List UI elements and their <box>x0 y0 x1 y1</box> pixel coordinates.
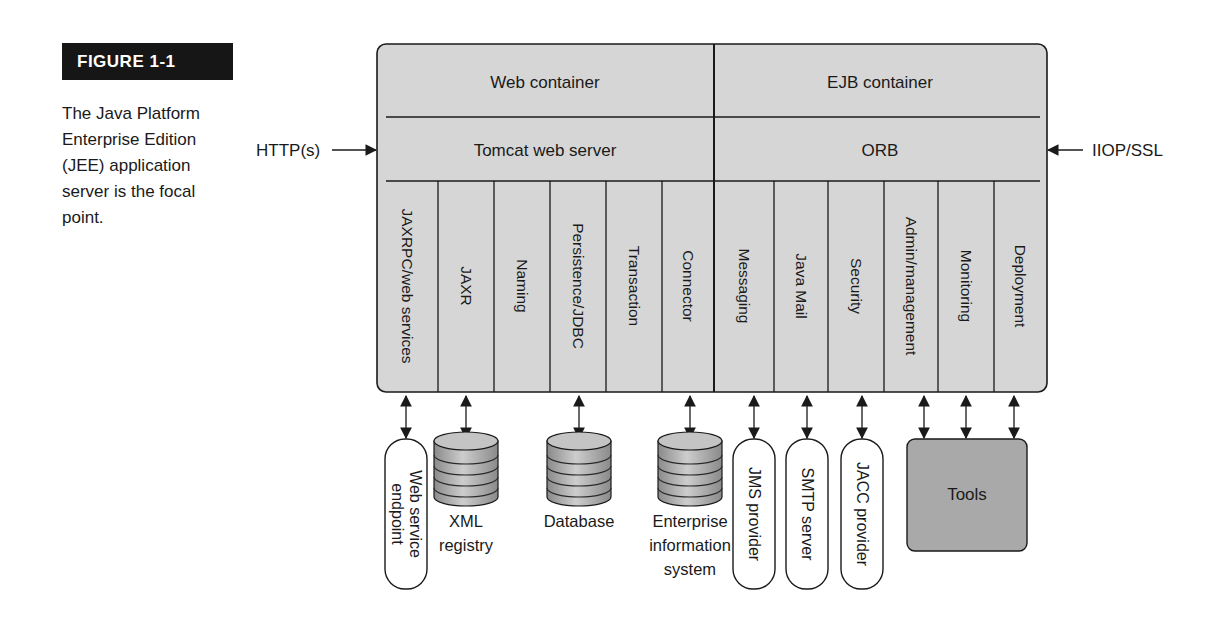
database-icon <box>547 432 611 506</box>
jee-architecture-diagram: Web container Tomcat web server EJB cont… <box>0 0 1232 620</box>
external-xml-registry: XMLregistry <box>434 396 498 554</box>
database-label: system <box>664 560 716 578</box>
service-messaging: Messaging <box>736 249 753 324</box>
service-label: Java Mail <box>793 253 810 318</box>
http-label: HTTP(s) <box>256 141 320 160</box>
server-box <box>377 44 1047 392</box>
pill-label: Web service <box>407 470 424 558</box>
service-label: Security <box>848 258 865 314</box>
tools-label: Tools <box>947 485 987 504</box>
service-label: Persistence/JDBC <box>570 223 587 349</box>
service-label: Connector <box>680 250 697 322</box>
service-label: Messaging <box>736 249 753 324</box>
database-label: Database <box>544 512 615 530</box>
database-label: Enterprise <box>652 512 727 530</box>
iiop-protocol: IIOP/SSL <box>1048 141 1163 160</box>
service-label: Deployment <box>1012 245 1029 328</box>
external-jacc-provider: JACC provider <box>841 396 883 589</box>
external-systems: Web serviceendpointXMLregistryDatabaseEn… <box>385 396 1027 589</box>
database-label: information <box>649 536 731 554</box>
service-label: JAXRPC/web services <box>399 208 416 363</box>
external-database: Database <box>544 396 615 530</box>
pill-label: endpoint <box>389 483 406 545</box>
database-icon <box>434 432 498 506</box>
http-protocol: HTTP(s) <box>256 141 376 160</box>
pill-label: JMS provider <box>746 467 763 562</box>
service-label: Naming <box>514 259 531 312</box>
pill-label: SMTP server <box>799 467 816 561</box>
orb-title: ORB <box>862 141 899 160</box>
iiop-label: IIOP/SSL <box>1092 141 1163 160</box>
external-web-service-endpoint: Web serviceendpoint <box>385 396 427 589</box>
pill-label: JACC provider <box>854 462 871 567</box>
web-server-title: Tomcat web server <box>474 141 617 160</box>
service-label: Monitoring <box>958 250 975 322</box>
database-label: XML <box>449 512 483 530</box>
service-jaxrpc-web-services: JAXRPC/web services <box>399 208 416 363</box>
ejb-container-title: EJB container <box>827 73 933 92</box>
database-label: registry <box>439 536 494 554</box>
external-tools: Tools <box>907 396 1027 551</box>
application-server: Web container Tomcat web server EJB cont… <box>377 44 1047 392</box>
service-label: Transaction <box>626 246 643 326</box>
database-icon <box>658 432 722 506</box>
service-label: Admin/management <box>903 217 920 356</box>
external-enterprise-information-system: Enterpriseinformationsystem <box>649 396 731 578</box>
web-container-title: Web container <box>490 73 600 92</box>
external-jms-provider: JMS provider <box>733 396 775 589</box>
external-smtp-server: SMTP server <box>786 396 828 589</box>
service-label: JAXR <box>458 266 475 306</box>
